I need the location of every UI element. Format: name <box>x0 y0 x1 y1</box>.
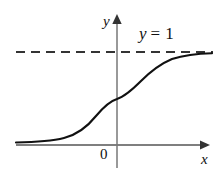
y-axis-label: y <box>103 14 110 29</box>
origin-label: 0 <box>100 147 108 162</box>
sigmoid-curve <box>16 53 212 142</box>
plot-canvas <box>0 0 224 192</box>
x-axis-arrowhead <box>200 141 210 150</box>
x-axis-label: x <box>201 152 208 167</box>
graph-figure: y x 0 y=1 <box>0 0 224 192</box>
asymptote-variable: y <box>139 24 147 43</box>
asymptote-value: 1 <box>165 24 174 43</box>
y-axis-arrowhead <box>112 14 121 24</box>
asymptote-equals: = <box>151 24 161 43</box>
asymptote-label: y=1 <box>139 25 174 42</box>
